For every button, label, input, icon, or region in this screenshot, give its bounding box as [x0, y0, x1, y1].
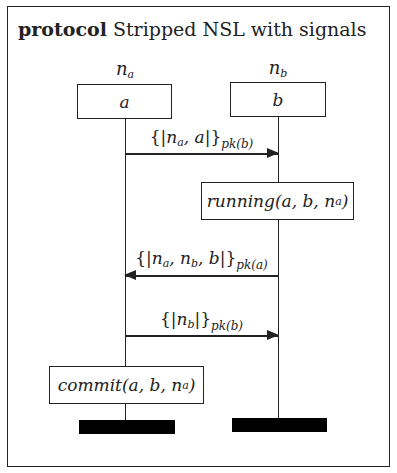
message-3-arrow	[125, 335, 278, 337]
message-1-label: {|na, a|}pk(b)	[125, 127, 278, 151]
message-1-arrow	[125, 153, 278, 155]
lifeline-a-lower	[125, 403, 127, 421]
end-bar-b	[232, 418, 327, 432]
title-name: Stripped NSL with signals	[113, 18, 367, 40]
role-box-b: b	[230, 82, 326, 117]
message-3-label: {|nb|}pk(b)	[125, 309, 278, 333]
message-2-label: {|na, nb, b|}pk(a)	[125, 248, 278, 272]
message-2-arrow	[125, 275, 278, 277]
title-keyword: protocol	[18, 18, 107, 40]
role-box-a: a	[77, 84, 172, 119]
signal-running: running(a, b, na)	[201, 182, 354, 220]
end-bar-a	[79, 420, 175, 434]
nonce-label-b: nb	[263, 57, 293, 80]
signal-commit: commit(a, b, na)	[49, 366, 204, 404]
nonce-label-a: na	[110, 58, 140, 81]
diagram-title: protocol Stripped NSL with signals	[18, 18, 366, 40]
